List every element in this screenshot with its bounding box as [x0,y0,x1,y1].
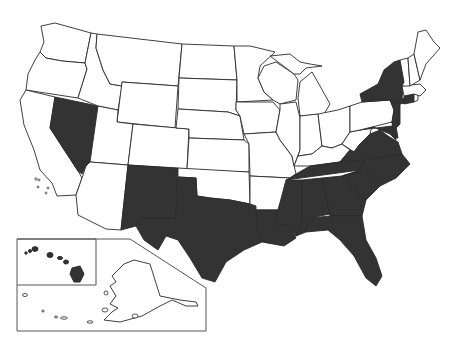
state-florida[interactable] [306,216,382,286]
channel-islands [35,178,49,194]
state-north-dakota[interactable] [179,44,237,80]
state-hawaii[interactable] [25,247,84,282]
state-colorado[interactable] [128,124,189,169]
state-wyoming[interactable] [117,82,178,128]
state-alaska[interactable] [104,260,198,322]
state-arizona[interactable] [76,162,128,230]
state-washington[interactable] [40,23,91,63]
hawaii-inset-frame [17,239,96,285]
state-montana[interactable] [96,34,182,86]
state-kansas[interactable] [187,138,249,172]
us-map: United States map with highlighted state… [0,0,452,346]
state-iowa[interactable] [236,102,280,134]
state-maine[interactable] [414,30,440,80]
